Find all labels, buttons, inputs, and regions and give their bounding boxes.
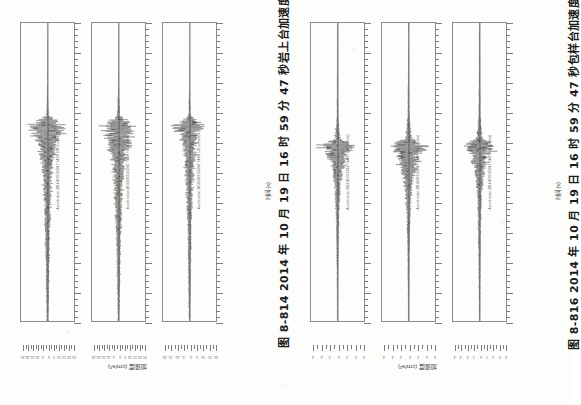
time-tick-minor [506,131,510,132]
time-tick-minor [435,71,439,72]
panel-baoy-ns: Acceleration 20141019165947 BAOY NS (cm/… [381,22,436,322]
accel-tick-label: 3 [499,355,501,359]
time-tick-major [216,53,223,54]
accel-tick [330,345,331,351]
time-tick-minor [364,59,368,60]
accel-tick [23,345,24,351]
time-tick-minor [216,107,220,108]
time-tick-minor [145,197,149,198]
accel-tick-minor [26,345,27,349]
time-tick-minor [435,155,439,156]
time-tick-minor [145,77,149,78]
time-tick-minor [74,245,78,246]
accel-tick-label: 5 [124,355,126,359]
accel-tick-label: 2 [346,355,348,359]
accel-tick [474,345,475,351]
panel-title: Acceleration 20141019165947 BAOY UD (cm/… [488,134,492,209]
accel-tick-minor [102,345,103,349]
time-tick-minor [145,107,149,108]
time-tick-major [435,53,442,54]
time-tick-minor [145,269,149,270]
time-tick-minor [435,29,439,30]
time-tick-minor [506,47,510,48]
time-tick-minor [506,101,510,102]
time-tick-major [145,53,152,54]
time-tick-minor [216,29,220,30]
time-tick-minor [435,167,439,168]
time-tick-minor [216,317,220,318]
time-tick-minor [364,269,368,270]
waveform-trace-baoy-ew [311,23,364,321]
time-tick-minor [145,89,149,90]
time-tick-minor [74,239,78,240]
accel-tick-label: 15 [62,355,66,359]
accel-tick [43,345,44,351]
time-tick-minor [74,101,78,102]
time-tick-minor [435,251,439,252]
accel-tick-minor [422,345,423,349]
time-tick-minor [216,167,220,168]
time-tick-major [216,23,223,24]
time-tick-major [435,323,442,324]
time-tick-minor [216,149,220,150]
time-tick-minor [506,251,510,252]
accel-tick [468,345,469,351]
time-tick-minor [74,95,78,96]
accel-tick-minor [97,345,98,349]
time-tick-major [506,323,513,324]
accel-tick-minor [326,345,327,349]
accel-tick-minor [41,345,42,349]
accel-tick [99,345,100,351]
time-tick-minor [364,251,368,252]
time-tick-minor [145,209,149,210]
time-tick-major [506,203,513,204]
time-tick-minor [435,89,439,90]
accel-tick [455,345,456,351]
time-tick-minor [435,299,439,300]
accel-tick-label: 10 [128,355,132,359]
time-tick-minor [74,41,78,42]
time-tick-minor [216,305,220,306]
accel-tick-minor [112,345,113,349]
time-tick-major [435,173,442,174]
accel-tick [401,345,402,351]
time-tick-minor [506,41,510,42]
accel-tick-label: 4 [355,355,357,359]
accel-tick-label: -5 [183,355,186,359]
time-tick-minor [364,197,368,198]
time-tick-major [145,203,152,204]
accel-axis-ticks: -6-4-20246 [311,345,366,371]
time-tick-major [145,323,152,324]
accel-tick-label: 6 [434,355,436,359]
time-tick-minor [74,299,78,300]
accel-tick [120,345,121,351]
accel-tick-label: -5 [113,355,116,359]
time-tick-minor [435,197,439,198]
time-tick-minor [506,149,510,150]
time-tick-minor [435,107,439,108]
accel-tick-minor [213,345,214,349]
time-tick-minor [435,119,439,120]
x-axis-label: 时间 (s) [554,182,562,200]
accel-tick-label: -4 [453,355,456,359]
time-tick-minor [435,131,439,132]
time-tick-minor [435,239,439,240]
time-tick-minor [364,311,368,312]
accel-tick [184,345,185,351]
time-tick-minor [506,137,510,138]
time-tick-minor [506,89,510,90]
accel-tick-label: 10 [201,355,205,359]
time-tick-minor [506,29,510,30]
time-tick-minor [364,89,368,90]
time-tick-minor [145,101,149,102]
time-tick-minor [216,227,220,228]
panel-title: Acceleration 20141019165947 BAOY EW (cm/… [346,134,350,210]
time-tick-minor [216,77,220,78]
time-tick-minor [506,107,510,108]
time-tick-minor [145,125,149,126]
accel-tick [171,345,172,351]
time-axis-ticks [506,23,520,323]
time-tick-major [74,113,81,114]
time-tick-minor [506,197,510,198]
time-tick-minor [74,59,78,60]
